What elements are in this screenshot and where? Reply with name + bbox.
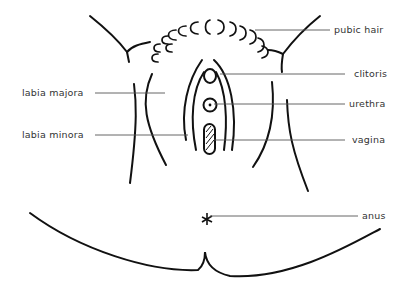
label-vagina: vagina: [352, 134, 385, 145]
label-urethra: urethra: [349, 98, 385, 109]
vagina-hatching: [206, 126, 214, 150]
label-pubic-hair: pubic hair: [334, 24, 383, 35]
anus-mark: [202, 213, 212, 225]
anatomy-drawing: [0, 0, 411, 298]
label-clitoris: clitoris: [354, 68, 387, 79]
pubic-hair-drawing: [152, 20, 268, 62]
diagram-canvas: pubic hair clitoris labia majora urethra…: [0, 0, 411, 298]
label-anus: anus: [362, 210, 386, 221]
label-labia-minora: labia minora: [22, 129, 84, 140]
left-groin-line: [90, 16, 150, 52]
label-labia-majora: labia majora: [22, 87, 84, 98]
